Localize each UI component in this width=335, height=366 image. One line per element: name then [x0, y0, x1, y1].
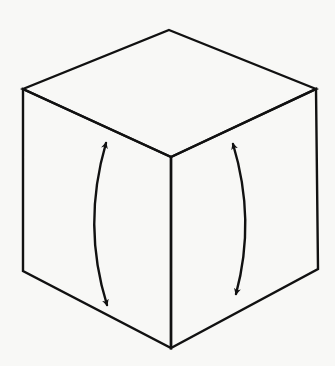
right-face-double-arrow-icon — [233, 144, 245, 294]
cube — [23, 30, 318, 348]
rotation-arrows — [94, 143, 245, 305]
left-face-double-arrow-icon — [94, 143, 107, 305]
diagram-canvas — [0, 0, 335, 366]
cube-left-face — [23, 89, 171, 348]
cube-diagram — [0, 0, 335, 366]
cube-top-face — [23, 30, 316, 157]
